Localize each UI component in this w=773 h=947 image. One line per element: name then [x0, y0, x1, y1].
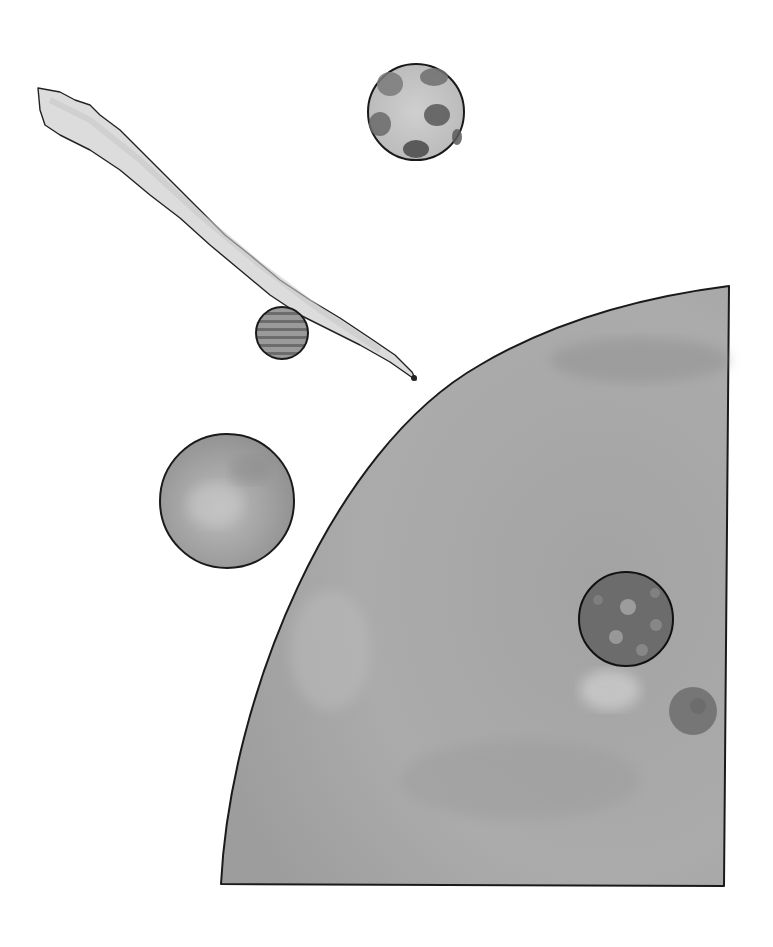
crater-planet	[579, 572, 673, 666]
dotted-planet	[368, 64, 464, 160]
mottled-planet	[160, 434, 294, 568]
comet-head	[411, 375, 417, 381]
comet	[38, 88, 417, 381]
illustration-svg	[0, 0, 773, 947]
small-dark-planet	[669, 687, 717, 735]
illustration-canvas	[0, 0, 773, 947]
